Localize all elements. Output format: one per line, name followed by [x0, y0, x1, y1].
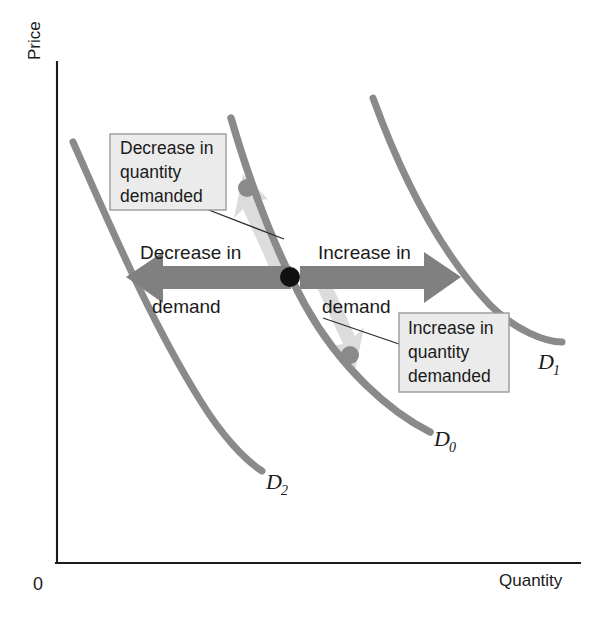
increase-callout-line-3: demanded [408, 366, 491, 386]
increase-in-demand-label-line-1: Increase in [318, 242, 411, 263]
increase-in-quantity-demanded-callout[interactable]: Increase in quantity demanded [399, 313, 509, 392]
increase-callout-line-1: Increase in [408, 318, 494, 338]
origin-label: 0 [33, 574, 43, 594]
curve-label-d1: D 1 [537, 349, 560, 378]
demand-shift-figure: Decrease in quantity demanded Increase i… [0, 0, 605, 637]
increase-callout-line-2: quantity [408, 342, 470, 362]
curve-label-d0-letter: D [433, 426, 450, 451]
equilibrium-point-marker [280, 267, 300, 287]
decrease-in-demand-label-line-1: Decrease in [140, 242, 241, 263]
curve-label-d2: D 2 [265, 469, 288, 498]
increase-in-demand-label-line-2: demand [322, 296, 391, 317]
demand-curve-diagram: Decrease in quantity demanded Increase i… [0, 0, 605, 637]
curve-label-d1-letter: D [537, 349, 554, 374]
decrease-callout-leader-line [201, 207, 284, 239]
curve-label-d1-subscript: 1 [553, 363, 560, 378]
decrease-callout-line-3: demanded [120, 186, 203, 206]
curve-label-d2-letter: D [265, 469, 282, 494]
x-axis-label: Quantity [499, 571, 563, 590]
curve-label-d0: D 0 [433, 426, 456, 455]
lower-point-marker [341, 346, 359, 364]
decrease-in-demand-label-line-2: demand [152, 296, 221, 317]
curve-label-d0-subscript: 0 [449, 440, 456, 455]
demand-curve-d1 [373, 98, 562, 342]
y-axis-label: Price [25, 21, 44, 60]
decrease-in-quantity-demanded-callout[interactable]: Decrease in quantity demanded [110, 134, 226, 210]
decrease-callout-line-1: Decrease in [120, 138, 213, 158]
upper-point-marker [238, 179, 256, 197]
decrease-callout-line-2: quantity [120, 162, 182, 182]
curve-label-d2-subscript: 2 [281, 483, 288, 498]
